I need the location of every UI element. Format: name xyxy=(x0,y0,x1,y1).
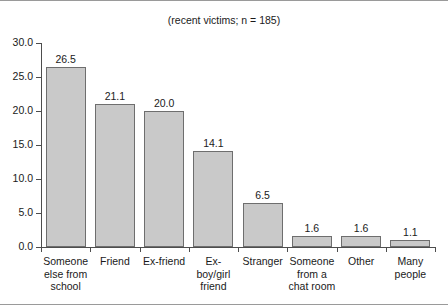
y-tick-mark xyxy=(36,179,41,180)
bar xyxy=(95,104,135,247)
y-axis-line xyxy=(41,43,42,248)
x-category-label-line: Friend xyxy=(90,255,139,268)
x-tick-mark xyxy=(90,247,91,252)
y-tick-label: 5.0 xyxy=(18,206,33,218)
x-tick-mark xyxy=(386,247,387,252)
x-category-label-line: friend xyxy=(189,280,238,293)
y-tick-label: 30.0 xyxy=(13,36,33,48)
x-category-label-line: else from xyxy=(41,268,90,281)
x-category-label: Someonefrom achat room xyxy=(287,255,336,293)
x-category-label: Other xyxy=(337,255,386,268)
x-tick-mark xyxy=(337,247,338,252)
bar xyxy=(341,236,381,247)
bar-value-label: 21.1 xyxy=(90,90,139,102)
chart-title: (recent victims; n = 185) xyxy=(0,14,448,26)
y-tick-label: 0.0 xyxy=(18,240,33,252)
y-tick-mark xyxy=(36,145,41,146)
bar xyxy=(193,151,233,247)
bar xyxy=(144,111,184,247)
y-tick-mark xyxy=(36,111,41,112)
x-category-label-line: Ex-boy/girl xyxy=(189,255,238,280)
x-category-label: Friend xyxy=(90,255,139,268)
x-category-label: Someoneelse fromschool xyxy=(41,255,90,293)
x-category-label-line: from a xyxy=(287,268,336,281)
x-category-label-line: Someone xyxy=(287,255,336,268)
x-category-label-line: chat room xyxy=(287,280,336,293)
x-tick-mark xyxy=(41,247,42,252)
bar-value-label: 1.1 xyxy=(386,226,435,238)
bar-value-label: 1.6 xyxy=(287,222,336,234)
x-category-label: Ex-friend xyxy=(140,255,189,268)
bar-value-label: 6.5 xyxy=(238,189,287,201)
x-category-label-line: people xyxy=(386,268,435,281)
bar xyxy=(292,236,332,247)
x-tick-mark xyxy=(287,247,288,252)
bar-value-label: 20.0 xyxy=(140,97,189,109)
y-tick-label: 10.0 xyxy=(13,172,33,184)
x-category-label-line: Other xyxy=(337,255,386,268)
bar xyxy=(243,203,283,247)
x-tick-mark xyxy=(435,247,436,252)
y-tick-label: 20.0 xyxy=(13,104,33,116)
bar-value-label: 1.6 xyxy=(337,222,386,234)
y-tick-label: 25.0 xyxy=(13,70,33,82)
x-category-label: Ex-boy/girlfriend xyxy=(189,255,238,293)
x-tick-mark xyxy=(238,247,239,252)
bar-value-label: 26.5 xyxy=(41,53,90,65)
bar xyxy=(390,240,430,247)
x-category-label-line: Someone xyxy=(41,255,90,268)
y-tick-mark xyxy=(36,43,41,44)
x-category-label-line: Many xyxy=(386,255,435,268)
x-category-label: Stranger xyxy=(238,255,287,268)
y-tick-label: 15.0 xyxy=(13,138,33,150)
y-tick-mark xyxy=(36,213,41,214)
x-tick-mark xyxy=(140,247,141,252)
x-category-label-line: Ex-friend xyxy=(140,255,189,268)
x-category-label-line: school xyxy=(41,280,90,293)
bar xyxy=(46,67,86,247)
plot-area: 0.05.010.015.020.025.030.0 26.521.120.01… xyxy=(41,43,435,247)
x-category-label-line: Stranger xyxy=(238,255,287,268)
y-tick-mark xyxy=(36,77,41,78)
x-category-label: Manypeople xyxy=(386,255,435,280)
chart-figure: (recent victims; n = 185) 0.05.010.015.0… xyxy=(0,0,448,305)
bar-value-label: 14.1 xyxy=(189,137,238,149)
x-tick-mark xyxy=(189,247,190,252)
